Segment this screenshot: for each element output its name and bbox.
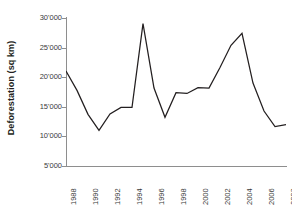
x-tick-label: 2008 xyxy=(289,188,292,205)
y-tick-mark xyxy=(62,107,67,108)
y-tick-label: 25'000 xyxy=(26,44,62,52)
y-axis-title: Deforestation (sq km) xyxy=(0,0,22,176)
figure-caption xyxy=(10,201,280,210)
y-tick-label: 20'000 xyxy=(26,73,62,81)
y-axis-tick-labels: 30'00025'00020'00015'00010'0005'000 xyxy=(22,0,62,176)
plot-area xyxy=(66,18,286,166)
y-axis-title-text: Deforestation (sq km) xyxy=(6,41,16,136)
y-tick-label: 30'000 xyxy=(26,14,62,22)
y-tick-mark xyxy=(62,18,67,19)
y-tick-label: 5'000 xyxy=(26,162,62,170)
y-tick-label: 10'000 xyxy=(26,132,62,140)
deforestation-data-line xyxy=(66,24,286,131)
y-tick-mark xyxy=(62,136,67,137)
y-tick-mark xyxy=(62,166,67,167)
y-tick-label: 15'000 xyxy=(26,103,62,111)
deforestation-line-svg xyxy=(66,18,286,166)
y-tick-mark xyxy=(62,48,67,49)
y-tick-mark xyxy=(62,77,67,78)
deforestation-line-chart-figure: Deforestation (sq km) 30'00025'00020'000… xyxy=(0,0,292,210)
